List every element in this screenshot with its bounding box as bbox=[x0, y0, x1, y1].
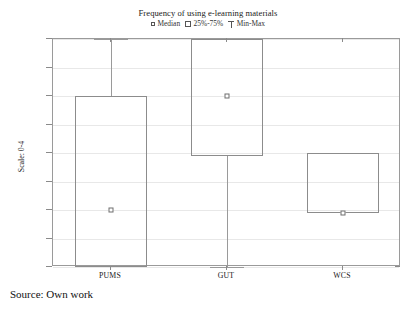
whisker-cap-min bbox=[210, 267, 244, 268]
legend-item-median: Median bbox=[151, 19, 180, 29]
x-tick-mark bbox=[110, 266, 111, 270]
whisker-lower bbox=[227, 156, 228, 267]
y-axis-title: Scale: 0-4 bbox=[17, 112, 26, 202]
legend-label-median: Median bbox=[158, 19, 181, 29]
box-iqr bbox=[75, 96, 147, 267]
median-marker bbox=[225, 94, 230, 99]
source-caption: Source: Own work bbox=[10, 288, 93, 300]
plot-area bbox=[52, 38, 400, 266]
legend-label-minmax: Min-Max bbox=[237, 19, 265, 29]
median-marker bbox=[341, 210, 346, 215]
box-iqr bbox=[307, 153, 379, 213]
median-square-icon bbox=[151, 22, 155, 26]
whisker-cap-max bbox=[94, 39, 128, 40]
x-tick-label: WCS bbox=[307, 271, 377, 280]
x-tick-mark-top bbox=[226, 38, 227, 42]
legend-item-box: 25%-75% bbox=[185, 19, 223, 29]
legend-item-minmax: Min-Max bbox=[228, 19, 265, 29]
x-tick-mark-top bbox=[342, 38, 343, 42]
box-square-icon bbox=[185, 21, 191, 27]
x-tick-mark bbox=[342, 266, 343, 270]
minmax-whisker-icon bbox=[228, 21, 234, 28]
x-tick-mark-top bbox=[110, 38, 111, 42]
y-tick-mark bbox=[46, 266, 52, 267]
legend-label-box: 25%-75% bbox=[194, 19, 224, 29]
median-marker bbox=[109, 208, 114, 213]
chart-legend: Median 25%-75% Min-Max bbox=[0, 19, 416, 29]
chart-title: Frequency of using e-learning materials bbox=[0, 8, 416, 19]
x-tick-mark bbox=[226, 266, 227, 270]
title-block: Frequency of using e-learning materials … bbox=[0, 8, 416, 29]
x-tick-label: PUMS bbox=[75, 271, 145, 280]
boxplot-figure: Frequency of using e-learning materials … bbox=[0, 0, 416, 313]
x-tick-label: GUT bbox=[191, 271, 261, 280]
whisker-upper bbox=[111, 39, 112, 96]
